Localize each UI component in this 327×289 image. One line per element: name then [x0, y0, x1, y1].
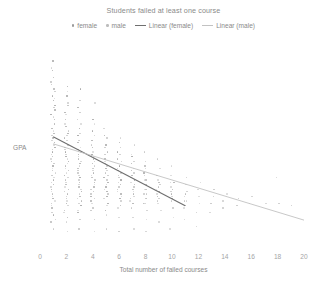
trendline-male: [53, 144, 304, 220]
trendlines-layer: [0, 0, 327, 289]
scatter-chart: Students failed at least one course fema…: [0, 0, 327, 289]
trendline-female: [53, 137, 185, 206]
